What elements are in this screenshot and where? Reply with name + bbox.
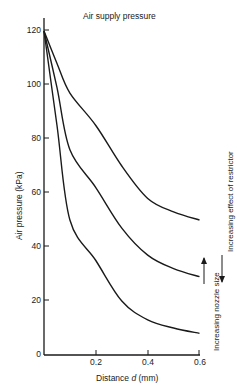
y-axis-label: Air pressure (kPa) [14,172,24,241]
svg-text:0.4: 0.4 [142,357,154,367]
svg-text:20: 20 [32,295,42,305]
x-ticks [96,350,199,355]
chart-plot-area: 120 100 80 60 40 20 0 0.2 0.4 0.6 [0,0,237,391]
svg-text:0.6: 0.6 [194,357,206,367]
data-curves [44,31,200,333]
series-curve-2 [44,31,200,277]
x-axis-label: Distance d (mm) [96,373,158,383]
svg-text:100: 100 [27,79,41,89]
svg-text:80: 80 [32,133,42,143]
chart-title: Air supply pressure [83,11,156,21]
series-curve-3 [44,31,200,333]
nozzle-size-arrow-icon [201,257,207,284]
restrictor-annotation: Increasing effect of restrictor [226,151,235,252]
svg-text:0: 0 [36,349,41,359]
svg-text:0.2: 0.2 [90,357,102,367]
x-axis-label-unit: (mm) [136,373,158,383]
svg-text:60: 60 [32,187,42,197]
nozzle-size-annotation: Increasing nozzle size [212,272,221,351]
y-tick-labels: 120 100 80 60 40 20 0 [27,25,41,359]
x-tick-labels: 0.2 0.4 0.6 [90,357,206,367]
series-curve-1 [44,31,200,220]
x-axis-label-prefix: Distance [96,373,131,383]
svg-text:120: 120 [27,25,41,35]
y-ticks [44,30,49,300]
svg-text:40: 40 [32,241,42,251]
